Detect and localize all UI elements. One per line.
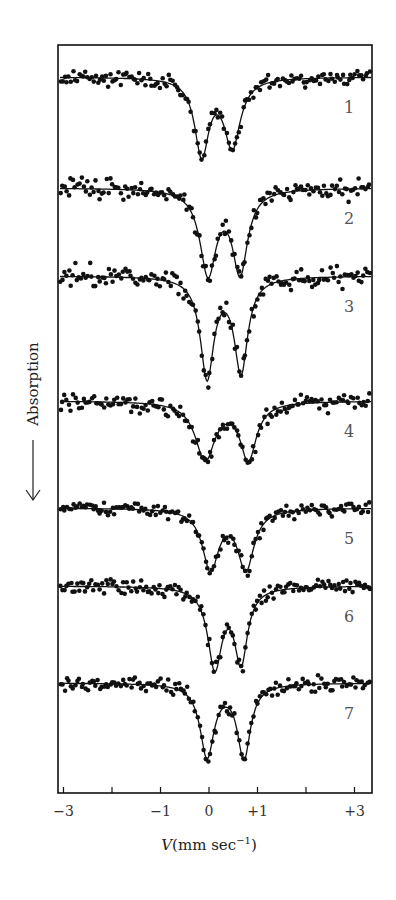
data-point xyxy=(235,265,240,270)
data-point xyxy=(357,504,362,509)
spectrum-7: 7 xyxy=(59,673,373,764)
data-point xyxy=(224,218,229,223)
y-axis-title: Absorption xyxy=(24,342,42,427)
data-point xyxy=(135,405,140,410)
data-point xyxy=(308,508,313,513)
mossbauer-chart: −3−10+1+3 1234567 V(mm sec−1) Absorption xyxy=(0,0,396,900)
data-point xyxy=(356,176,361,181)
data-point xyxy=(336,280,341,285)
data-point xyxy=(75,400,80,405)
data-point xyxy=(324,505,329,510)
data-point xyxy=(206,127,211,132)
data-point xyxy=(261,196,266,201)
data-point xyxy=(314,78,319,83)
data-point xyxy=(69,79,74,84)
data-point xyxy=(287,282,292,287)
data-point xyxy=(324,403,329,408)
data-point xyxy=(240,445,245,450)
data-point xyxy=(245,338,250,343)
data-point xyxy=(193,709,198,714)
data-point xyxy=(227,320,232,325)
data-point xyxy=(86,688,91,693)
data-point xyxy=(237,269,242,274)
data-point xyxy=(216,316,221,321)
data-point xyxy=(189,425,194,430)
data-point xyxy=(239,664,244,669)
data-point xyxy=(93,504,98,509)
spectrum-4: 4 xyxy=(59,391,372,465)
data-point xyxy=(85,179,90,184)
data-point xyxy=(203,623,208,628)
data-point xyxy=(191,215,196,220)
data-point xyxy=(359,679,364,684)
data-point xyxy=(121,197,126,202)
data-point xyxy=(108,176,113,181)
data-point xyxy=(176,292,181,297)
data-point xyxy=(77,588,82,593)
data-point xyxy=(345,82,350,87)
data-point xyxy=(135,81,140,86)
data-point xyxy=(201,546,206,551)
data-point xyxy=(218,547,223,552)
data-point xyxy=(112,579,117,584)
data-point xyxy=(108,509,113,514)
data-point xyxy=(264,692,269,697)
data-point xyxy=(368,587,373,592)
data-point xyxy=(367,680,372,685)
data-point xyxy=(326,411,331,416)
data-point xyxy=(296,511,301,516)
data-point xyxy=(162,683,167,688)
data-point xyxy=(250,611,255,616)
data-point xyxy=(239,274,244,279)
data-point xyxy=(124,683,129,688)
data-point xyxy=(77,676,82,681)
data-point xyxy=(63,184,68,189)
data-point xyxy=(131,507,136,512)
data-point xyxy=(199,254,204,259)
data-point xyxy=(361,273,366,278)
data-point xyxy=(164,84,169,89)
data-point xyxy=(181,413,186,418)
data-point xyxy=(200,354,205,359)
data-point xyxy=(340,684,345,689)
data-point xyxy=(237,369,242,374)
data-point xyxy=(264,407,269,412)
data-point xyxy=(166,280,171,285)
data-point xyxy=(213,730,218,735)
data-point xyxy=(241,105,246,110)
data-point xyxy=(101,190,106,195)
data-point xyxy=(119,83,124,88)
data-point xyxy=(160,397,165,402)
data-point xyxy=(197,150,202,155)
data-point xyxy=(214,108,219,113)
data-point xyxy=(289,288,294,293)
x-tick-label: +3 xyxy=(344,803,365,819)
data-point xyxy=(131,579,136,584)
data-point xyxy=(294,681,299,686)
data-point xyxy=(249,721,254,726)
data-point xyxy=(158,86,163,91)
data-point xyxy=(119,684,124,689)
data-point xyxy=(60,278,65,283)
data-point xyxy=(216,713,221,718)
data-point xyxy=(342,393,347,398)
data-point xyxy=(239,752,244,757)
data-point xyxy=(137,681,142,686)
data-point xyxy=(143,507,148,512)
data-point xyxy=(124,580,129,585)
data-point xyxy=(197,233,202,238)
data-point xyxy=(328,72,333,77)
data-point xyxy=(200,735,205,740)
data-point xyxy=(235,345,240,350)
data-point xyxy=(221,635,226,640)
data-point xyxy=(131,276,136,281)
data-point xyxy=(112,512,117,517)
data-point xyxy=(209,454,214,459)
data-point xyxy=(116,70,121,75)
data-point xyxy=(368,271,373,276)
data-point xyxy=(146,408,151,413)
data-point xyxy=(347,587,352,592)
data-point xyxy=(353,186,358,191)
data-point xyxy=(92,79,97,84)
data-point xyxy=(169,284,174,289)
